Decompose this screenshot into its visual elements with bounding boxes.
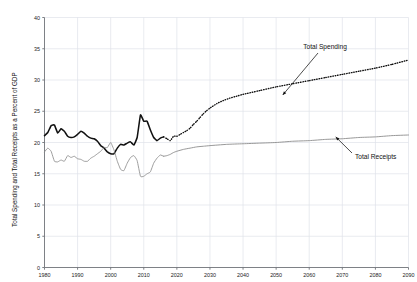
x-tick-label-2040: 2040 — [237, 272, 249, 278]
y-tick-label-0: 0 — [37, 265, 40, 271]
annotation-label-total-spending: Total Spending — [303, 43, 347, 51]
y-tick-label-10: 10 — [34, 202, 40, 208]
y-tick-label-25: 25 — [34, 108, 40, 114]
annotation-label-total-receipts: Total Receipts — [355, 153, 397, 161]
x-tick-label-2090: 2090 — [403, 272, 415, 278]
y-tick-label-15: 15 — [34, 171, 40, 177]
y-axis-title: Total Spending and Total Receipts as a P… — [11, 72, 19, 227]
x-tick-label-2080: 2080 — [369, 272, 381, 278]
x-tick-label-2070: 2070 — [336, 272, 348, 278]
x-tick-label-2030: 2030 — [204, 272, 216, 278]
x-tick-label-1990: 1990 — [72, 272, 84, 278]
y-tick-label-40: 40 — [34, 15, 40, 21]
x-tick-label-1980: 1980 — [39, 272, 51, 278]
fiscal-outlook-line-chart: 0510152025303540 19801990200020102020203… — [0, 0, 417, 282]
chart-container: 0510152025303540 19801990200020102020203… — [0, 0, 417, 282]
y-tick-label-20: 20 — [34, 140, 40, 146]
x-tick-label-2020: 2020 — [171, 272, 183, 278]
x-tick-label-2050: 2050 — [270, 272, 282, 278]
x-tick-label-2000: 2000 — [105, 272, 117, 278]
y-tick-label-30: 30 — [34, 77, 40, 83]
y-tick-label-5: 5 — [37, 233, 40, 239]
y-tick-label-35: 35 — [34, 46, 40, 52]
x-tick-label-2010: 2010 — [138, 272, 150, 278]
x-tick-label-2060: 2060 — [303, 272, 315, 278]
chart-background — [0, 0, 417, 282]
